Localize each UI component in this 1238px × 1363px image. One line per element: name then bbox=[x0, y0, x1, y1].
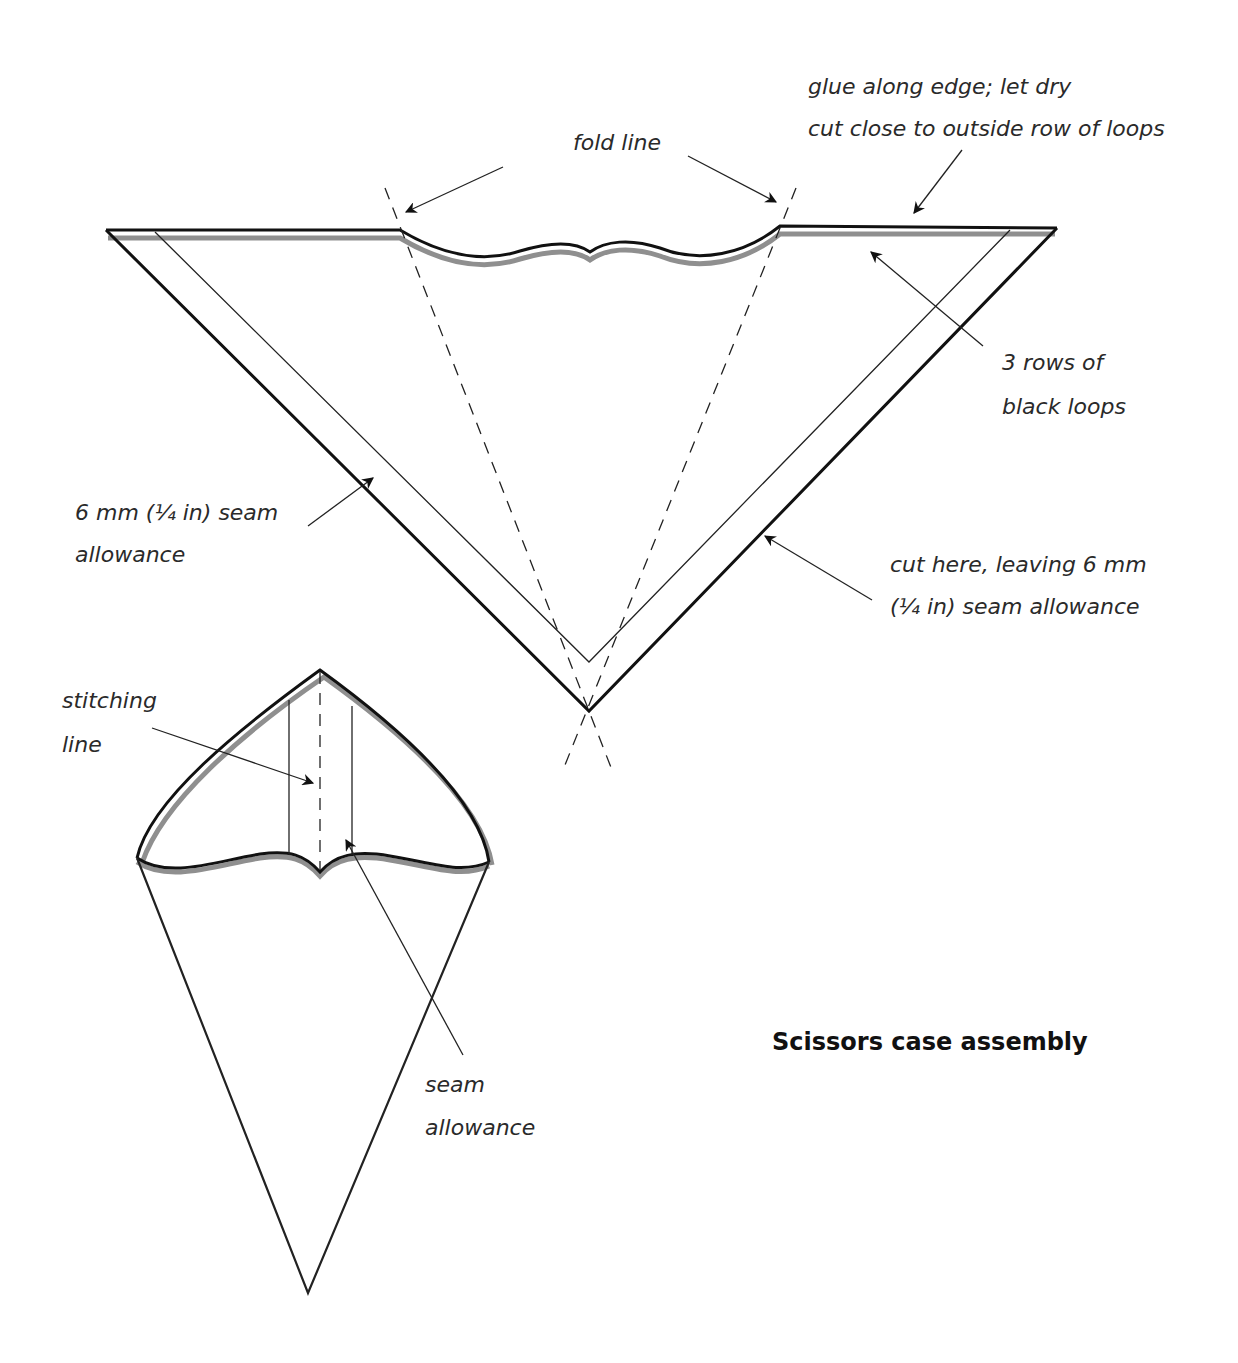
label-cut-here-line2: (¼ in) seam allowance bbox=[890, 594, 1140, 619]
seam-allowance-arrow-left bbox=[308, 478, 373, 526]
label-rows-line2: black loops bbox=[1002, 394, 1126, 419]
label-glue: glue along edge; let dry bbox=[808, 74, 1072, 99]
figure-title: Scissors case assembly bbox=[772, 1028, 1088, 1056]
top-edge-shadow bbox=[108, 234, 1055, 265]
label-fold-line: fold line bbox=[573, 130, 661, 155]
label-seam-left-line1: 6 mm (¼ in) seam bbox=[75, 500, 278, 525]
label-stitching-line1: stitching bbox=[62, 688, 157, 713]
fold-line-arrow-left bbox=[406, 167, 503, 212]
scissors-case-diagram: glue along edge; let dry cut close to ou… bbox=[0, 0, 1238, 1363]
assembled-cone bbox=[137, 670, 492, 1293]
label-seam-bottom-line2: allowance bbox=[425, 1115, 535, 1140]
loops-arrow bbox=[871, 252, 983, 346]
flap-outline bbox=[137, 670, 489, 862]
label-seam-bottom-line1: seam bbox=[425, 1072, 485, 1097]
label-seam-left-line2: allowance bbox=[75, 542, 185, 567]
cut-here-arrow bbox=[765, 536, 872, 600]
top-edge bbox=[106, 226, 1057, 257]
fold-line-right bbox=[563, 188, 796, 770]
label-rows-line1: 3 rows of bbox=[1002, 350, 1106, 375]
fold-line-arrow-right bbox=[688, 156, 776, 202]
label-cut-here-line1: cut here, leaving 6 mm bbox=[890, 552, 1147, 577]
label-stitching-line2: line bbox=[62, 732, 102, 757]
glue-edge-arrow bbox=[914, 150, 962, 213]
outer-cut-edge bbox=[106, 228, 1057, 711]
flat-pattern bbox=[106, 188, 1057, 770]
fold-line-left bbox=[385, 188, 612, 770]
label-cut-close: cut close to outside row of loops bbox=[808, 116, 1165, 141]
inner-seam-line bbox=[155, 230, 1010, 662]
